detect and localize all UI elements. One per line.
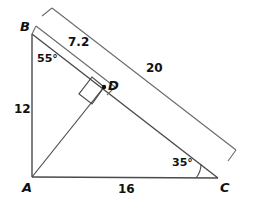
measure-label-bc: 20 bbox=[146, 62, 163, 74]
measure-label-ab: 12 bbox=[14, 103, 31, 115]
angle-arc-c bbox=[196, 164, 201, 178]
measure-label-bd: 7.2 bbox=[68, 36, 89, 48]
dimension-bracket-bc-tick-end bbox=[228, 150, 236, 161]
right-angle-marker-d bbox=[79, 77, 104, 104]
dimension-bracket-bc-tick-start bbox=[42, 8, 52, 16]
point-marker-d bbox=[102, 85, 106, 89]
segment-ad bbox=[32, 87, 104, 177]
vertex-label-d: D bbox=[108, 79, 119, 92]
dimension-bracket-bc-line bbox=[52, 8, 236, 150]
diagram-canvas bbox=[0, 0, 253, 204]
dimension-band-bd-tick-start bbox=[32, 26, 36, 34]
vertex-label-c: C bbox=[220, 181, 230, 194]
measure-label-ac: 16 bbox=[118, 183, 135, 195]
angle-label-b: 55° bbox=[37, 53, 58, 64]
segment-ac bbox=[32, 177, 218, 178]
vertex-label-a: A bbox=[22, 181, 32, 194]
geometry-diagram: B A C D 12 16 20 7.2 55° 35° bbox=[0, 0, 253, 204]
vertex-label-b: B bbox=[20, 20, 30, 33]
angle-label-c: 35° bbox=[172, 157, 193, 168]
